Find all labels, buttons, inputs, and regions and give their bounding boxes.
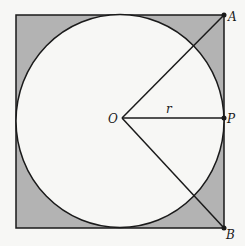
label-O: O <box>108 112 118 126</box>
label-A: A <box>227 10 237 24</box>
point-P <box>222 116 227 121</box>
diagram-canvas: A B O P r <box>0 0 245 246</box>
label-B: B <box>225 228 235 242</box>
label-P: P <box>226 112 236 126</box>
point-A <box>222 13 227 18</box>
